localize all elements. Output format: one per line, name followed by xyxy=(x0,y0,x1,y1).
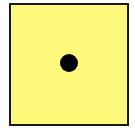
center-dot xyxy=(60,54,78,72)
